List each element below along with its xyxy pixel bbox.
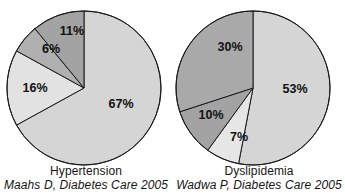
caption-title-hypertension: Hypertension xyxy=(0,165,172,178)
pie-chart-dyslipidemia: 53%7%10%30% xyxy=(173,0,345,172)
caption-hypertension: Hypertension Maahs D, Diabetes Care 2005 xyxy=(0,165,172,193)
chart-panel-dyslipidemia: 53%7%10%30% Dyslipidemia Wadwa P, Diabet… xyxy=(173,0,345,195)
pie-chart-hypertension: 67%16%6%11% xyxy=(0,0,172,172)
caption-title-dyslipidemia: Dyslipidemia xyxy=(173,165,345,178)
caption-dyslipidemia: Dyslipidemia Wadwa P, Diabetes Care 2005 xyxy=(173,165,345,193)
pie-slice-label: 7% xyxy=(230,130,248,144)
pie-slice-label: 53% xyxy=(282,82,307,96)
caption-source-hypertension: Maahs D, Diabetes Care 2005 xyxy=(0,179,172,192)
pie-slice-label: 67% xyxy=(108,97,133,111)
pie-slice-label: 6% xyxy=(42,42,60,56)
pie-slice-label: 10% xyxy=(198,108,223,122)
pie-slice-label: 30% xyxy=(217,40,242,54)
pie-chart-figure: 67%16%6%11% Hypertension Maahs D, Diabet… xyxy=(0,0,345,195)
caption-source-dyslipidemia: Wadwa P, Diabetes Care 2005 xyxy=(173,179,345,192)
pie-slice-label: 11% xyxy=(60,24,84,38)
pie-slice-label: 16% xyxy=(22,81,47,95)
chart-panel-hypertension: 67%16%6%11% Hypertension Maahs D, Diabet… xyxy=(0,0,172,195)
